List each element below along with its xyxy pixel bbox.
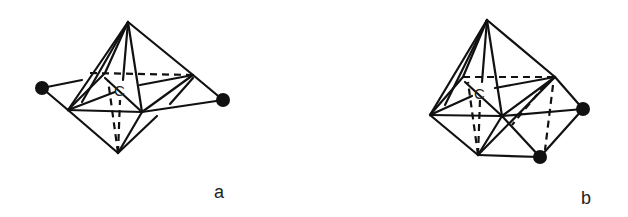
- cap-atom: [533, 150, 547, 164]
- cap-bond: [478, 155, 540, 157]
- carbon-label: C: [114, 82, 125, 99]
- figure-b-octahedron: C: [430, 20, 590, 164]
- edge: [487, 20, 502, 116]
- cap-bond: [502, 109, 583, 116]
- edge: [430, 115, 502, 116]
- back-edge: [545, 85, 553, 150]
- edge: [128, 22, 142, 112]
- inner-edge: [170, 78, 193, 104]
- cap-bond: [502, 116, 540, 157]
- edge: [430, 115, 478, 155]
- cap-bond: [142, 100, 223, 112]
- cap-atom: [35, 81, 49, 95]
- cap-atom: [216, 93, 230, 107]
- diagram-canvas: C C: [0, 0, 628, 217]
- edge: [68, 110, 118, 153]
- back-edge: [118, 100, 120, 153]
- panel-label-a: a: [214, 182, 224, 203]
- edge: [68, 73, 105, 110]
- edge: [128, 22, 193, 75]
- edge: [68, 110, 142, 112]
- cap-atom: [576, 102, 590, 116]
- edge: [487, 20, 555, 77]
- figure-a-octahedron: C: [35, 22, 230, 153]
- panel-label-b: b: [581, 188, 591, 209]
- edge: [430, 77, 463, 115]
- carbon-label: C: [474, 85, 485, 102]
- back-edge: [478, 100, 480, 155]
